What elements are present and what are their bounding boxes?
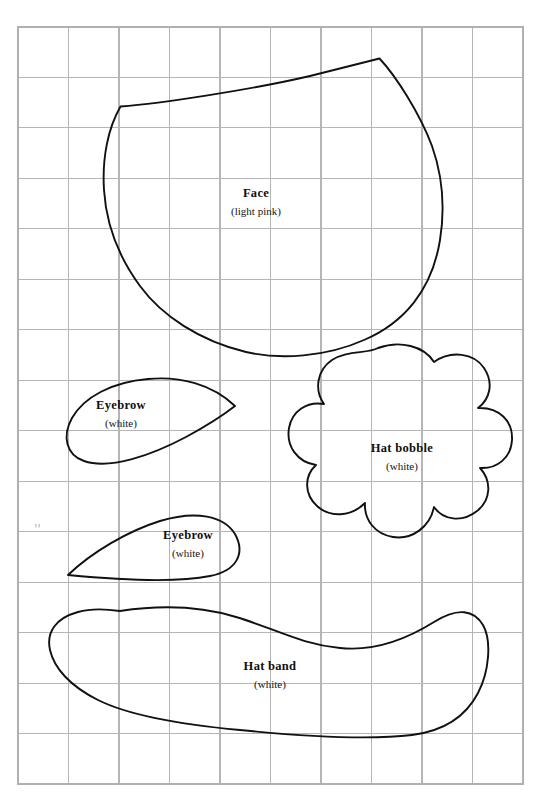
pattern-piece-hat-bobble[interactable] xyxy=(289,344,513,537)
pattern-piece-eyebrow-right[interactable] xyxy=(68,515,239,580)
pattern-sheet: Face(light pink)Eyebrow(white)Eyebrow(wh… xyxy=(0,0,542,798)
pattern-canvas: Face(light pink)Eyebrow(white)Eyebrow(wh… xyxy=(0,0,542,798)
pattern-piece-eyebrow-left[interactable] xyxy=(67,378,235,463)
scan-artifacts xyxy=(35,524,40,527)
scan-speck xyxy=(35,524,37,527)
scan-speck xyxy=(38,524,40,527)
pattern-pieces xyxy=(49,59,512,738)
pattern-piece-face[interactable] xyxy=(104,59,443,357)
